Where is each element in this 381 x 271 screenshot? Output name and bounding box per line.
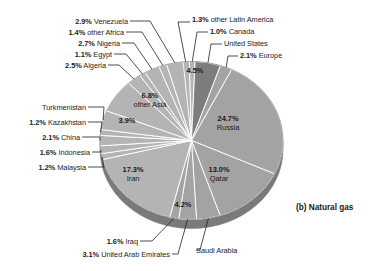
slice-label-iran: 17.3% Iran bbox=[108, 165, 158, 183]
leader-line-canada bbox=[192, 32, 208, 62]
callout-label-algeria: 2.5% Algeria bbox=[0, 62, 106, 71]
callout-label-kazakhstan: 1.2% Kazakhstan bbox=[0, 119, 86, 128]
leader-line-algeria bbox=[108, 65, 134, 79]
callout-label-china: 2.1% China bbox=[0, 134, 80, 143]
callout-label-malaysia: 1.2% Malaysia bbox=[0, 164, 86, 173]
leader-line-egypt bbox=[114, 54, 142, 74]
figure-caption: (b) Natural gas bbox=[296, 203, 353, 212]
leader-line-venezuela bbox=[130, 21, 175, 63]
slice-label-qatar: 13.0% Qatar bbox=[194, 165, 244, 183]
leader-line-europe bbox=[226, 56, 238, 67]
leader-line-kazakhstan bbox=[88, 122, 102, 132]
leader-line-indonesia bbox=[92, 150, 101, 152]
leader-line-united-states bbox=[208, 44, 222, 63]
slice-label-united-states-pct: 4.5% bbox=[178, 66, 212, 75]
slice-label-russia: 24.7% Russia bbox=[200, 114, 256, 132]
leader-line-turkmenistan bbox=[88, 107, 104, 120]
leader-line-other-latin-america bbox=[178, 22, 190, 62]
callout-label-turkmenistan: Turkmenistan bbox=[0, 104, 86, 113]
callout-label-egypt: 1.1% Egypt bbox=[0, 51, 112, 60]
callout-label-other-africa: 1.4% other Africa bbox=[0, 29, 124, 38]
callout-label-united-states: United States bbox=[224, 40, 268, 49]
callout-label-canada: 1.0% Canada bbox=[210, 28, 254, 37]
callout-label-saudi-arabia: Saudi Arabia bbox=[196, 247, 237, 256]
callout-label-other-latin-america: 1.3% other Latin America bbox=[192, 16, 273, 25]
natural-gas-pie-chart-figure: 24.7% Russia 17.3% Iran 13.0% Qatar 6.8%… bbox=[0, 0, 381, 271]
callout-label-iraq: 1.6% Iraq bbox=[50, 238, 138, 247]
leader-line-china bbox=[82, 137, 100, 141]
callout-label-venezuela: 2.9% Venezuela bbox=[0, 18, 128, 27]
leader-line-nigeria bbox=[122, 43, 152, 69]
slice-label-saudi-arabia-pct: 4.2% bbox=[166, 200, 200, 209]
slice-label-turkmenistan-pct: 3.9% bbox=[110, 116, 144, 125]
callout-label-united-arab-emirates: 3.1% United Arab Emirates bbox=[20, 251, 170, 260]
callout-label-indonesia: 1.6% Indonesia bbox=[0, 149, 90, 158]
callout-label-europe: 2.1% Europe bbox=[240, 52, 282, 61]
callout-label-nigeria: 2.7% Nigeria bbox=[0, 40, 120, 49]
slice-label-other-asia: 6.8% other Asia bbox=[124, 91, 176, 109]
